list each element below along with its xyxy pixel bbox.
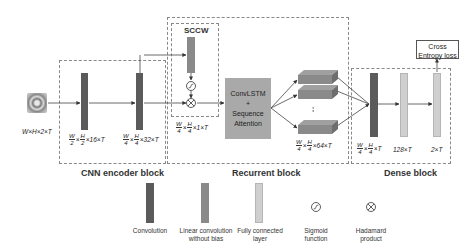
- cnn-encoder-block-label: CNN encoder block: [81, 168, 164, 178]
- input-dim-label: W×H×2×T: [22, 128, 52, 135]
- input-frame-image: [27, 93, 47, 113]
- conv-layer-1: [81, 73, 88, 130]
- conv-layer-2: [136, 73, 143, 130]
- legend-linear-conv-swatch: [201, 183, 209, 223]
- conv2-dim-label: W4×H4×32×T: [123, 133, 159, 146]
- dense-fc-layer-1: [400, 73, 408, 137]
- sccw-label: SCCW: [184, 26, 208, 35]
- legend-fc-label: Fully connectedlayer: [234, 227, 286, 243]
- dense-fc-layer-2: [433, 73, 441, 137]
- dense-dim-label-1: W4×H4×T: [357, 142, 382, 155]
- sccw-dim-label: W4×H4×1×T: [176, 121, 208, 134]
- stack-ellipsis: ⁞: [312, 105, 314, 114]
- legend-sigmoid-icon: [311, 202, 321, 212]
- legend-linear-conv-label: Linear convolutionwithout bias: [178, 227, 234, 243]
- cross-entropy-loss-box: Cross Entropy loss: [416, 40, 459, 59]
- lstm-output-stack: [298, 70, 338, 134]
- conv1-dim-label: W2×H2×16×T: [69, 133, 105, 146]
- legend-hadamard-icon: [366, 202, 376, 212]
- dense-dim-label-3: 2×T: [431, 146, 442, 153]
- convlstm-attention-box: ConvLSTM + Sequence Attention: [225, 78, 271, 139]
- legend-convolution-label: Convolution: [126, 227, 174, 235]
- sccw-linear-conv: [187, 37, 195, 73]
- legend-convolution-swatch: [146, 183, 154, 223]
- legend-sigmoid-label: Sigmoidfunction: [296, 227, 336, 243]
- legend-fc-swatch: [255, 183, 263, 223]
- legend-hadamard-label: Hadamardproduct: [351, 227, 391, 243]
- dense-dim-label-2: 128×T: [393, 146, 412, 153]
- lstm-output-dim-label: W4×H4×64×T: [296, 139, 332, 152]
- dense-block-label: Dense block: [384, 168, 437, 178]
- recurrent-block-label: Recurrent block: [232, 168, 301, 178]
- dense-conv-layer: [370, 73, 378, 137]
